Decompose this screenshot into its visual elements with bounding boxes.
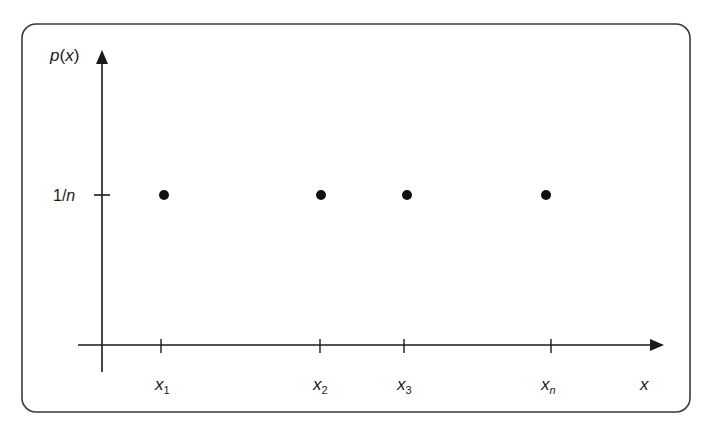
uniform-distribution-diagram: p(x) 1/n x1 x2 x3 xn x: [0, 0, 708, 430]
x-axis-label: x: [639, 375, 649, 394]
diagram-frame: [22, 24, 690, 412]
y-axis-label: p(x): [49, 46, 79, 65]
data-point-2: [316, 190, 326, 200]
data-point-1: [159, 190, 169, 200]
y-tick-label: 1/n: [53, 187, 75, 204]
data-point-n: [541, 190, 551, 200]
data-point-3: [402, 190, 412, 200]
